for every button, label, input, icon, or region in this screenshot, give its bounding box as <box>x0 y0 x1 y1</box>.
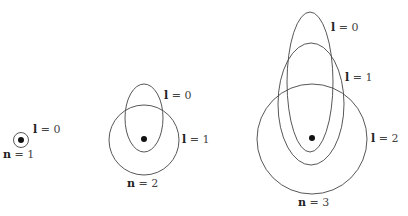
orbit-diagram: l = 0 n = 1 l = 0 l = 1 n = 2 l = 0 l = … <box>0 0 408 216</box>
nucleus-n2 <box>141 136 147 142</box>
label-n3-l2: l = 2 <box>371 132 398 145</box>
orbit-n3-l0 <box>287 12 333 152</box>
label-n3: n = 3 <box>298 196 329 209</box>
label-n2-l0: l = 0 <box>164 89 191 102</box>
nucleus-n3 <box>309 135 315 141</box>
label-n1-l0: l = 0 <box>33 123 60 136</box>
label-n3-l1: l = 1 <box>345 71 372 84</box>
label-n3-l0: l = 0 <box>331 21 358 34</box>
label-n2-l1: l = 1 <box>182 133 209 146</box>
orbit-group-n2: l = 0 l = 1 n = 2 <box>109 84 209 190</box>
label-n2: n = 2 <box>127 177 158 190</box>
label-n1: n = 1 <box>3 148 34 161</box>
nucleus-n1 <box>18 137 24 143</box>
orbit-group-n3: l = 0 l = 1 l = 2 n = 3 <box>257 12 398 209</box>
orbit-group-n1: l = 0 n = 1 <box>3 123 60 161</box>
